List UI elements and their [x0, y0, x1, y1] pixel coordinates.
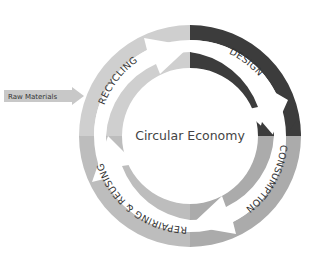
arrow-right-icon [72, 87, 84, 105]
stage-design [190, 25, 301, 136]
stage-recycling [79, 25, 190, 136]
raw-materials-label: Raw Materials [8, 93, 57, 101]
center-title: Circular Economy [135, 128, 245, 143]
raw-materials-input: Raw Materials [4, 87, 84, 105]
stage-repairing-reusing [79, 136, 190, 247]
circular-economy-diagram: Raw Materials DESIGN CONSUMPTION REPAIRI… [0, 0, 318, 263]
